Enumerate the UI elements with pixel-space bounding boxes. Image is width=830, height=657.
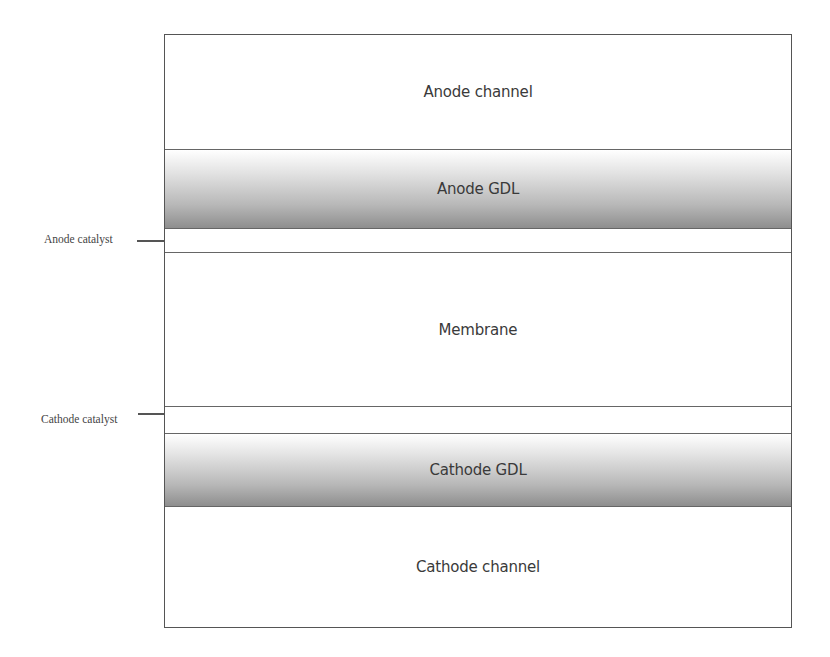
fuel-cell-stack: Anode channel Anode GDL Membrane Cathode…	[164, 34, 792, 628]
cathode-catalyst-callout: Cathode catalyst	[41, 413, 117, 425]
anode-channel-layer: Anode channel	[165, 35, 791, 150]
anode-catalyst-callout: Anode catalyst	[44, 233, 113, 245]
cathode-catalyst-layer	[165, 407, 791, 434]
anode-channel-label: Anode channel	[423, 83, 532, 101]
cathode-gdl-layer: Cathode GDL	[165, 434, 791, 507]
anode-catalyst-leader-line	[137, 240, 164, 242]
anode-gdl-label: Anode GDL	[437, 180, 519, 198]
cathode-channel-layer: Cathode channel	[165, 508, 791, 626]
anode-catalyst-layer	[165, 230, 791, 253]
membrane-label: Membrane	[439, 321, 518, 339]
cathode-catalyst-leader-line	[138, 413, 164, 415]
cathode-channel-label: Cathode channel	[416, 558, 540, 576]
cathode-gdl-label: Cathode GDL	[429, 461, 526, 479]
anode-gdl-layer: Anode GDL	[165, 150, 791, 229]
membrane-layer: Membrane	[165, 253, 791, 407]
